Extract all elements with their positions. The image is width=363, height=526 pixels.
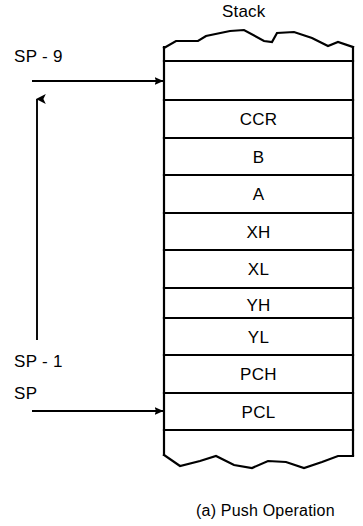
stack-bottom-torn-edge [164, 455, 353, 468]
stack-title: Stack [222, 3, 266, 20]
stack-cell-a-label: A [164, 185, 353, 205]
stack-cell-xl-label: XL [164, 260, 353, 280]
stack-cell-pch-label: PCH [164, 365, 353, 385]
stack-cell-pcl-label: PCL [164, 403, 353, 423]
pointer-label-sp-minus-9: SP - 9 [14, 48, 63, 65]
pointer-label-sp-minus-1: SP - 1 [14, 353, 63, 370]
stack-top-torn-edge [164, 30, 353, 48]
stack-cell-b-label: B [164, 148, 353, 168]
stack-cell-yh-label: YH [164, 296, 353, 316]
pointer-label-sp: SP [14, 385, 37, 402]
stack-push-diagram: Stack SP - 9 SP - 1 SP CCR B A XH XL YH … [0, 0, 363, 526]
stack-cell-xh-label: XH [164, 223, 353, 243]
stack-cell-yl-label: YL [164, 328, 353, 348]
figure-caption: (a) Push Operation [196, 503, 335, 519]
stack-cell-ccr-label: CCR [164, 110, 353, 130]
